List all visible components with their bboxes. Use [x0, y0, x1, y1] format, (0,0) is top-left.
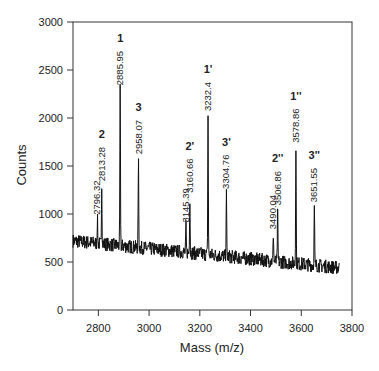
peak-mass-label: 2958.07 — [133, 120, 144, 154]
x-tick-label: 3600 — [289, 322, 313, 334]
y-tick-label: 3000 — [39, 16, 63, 28]
peak-id-label: 3' — [222, 136, 231, 148]
peak-mass-label: 3651.55 — [308, 168, 319, 202]
y-tick-label: 1000 — [39, 208, 63, 220]
peak-id-label: 1'' — [290, 90, 302, 102]
x-tick-label: 3800 — [340, 322, 364, 334]
peak-labels: 2796.322813.2822885.9512958.0733145.3931… — [91, 32, 320, 229]
peak-id-label: 3'' — [309, 149, 321, 161]
peak-id-label: 1' — [204, 63, 213, 75]
x-tick-label: 3000 — [137, 322, 161, 334]
x-tick-label: 3200 — [188, 322, 212, 334]
peak-id-label: 1 — [117, 32, 123, 44]
y-tick-label: 2500 — [39, 64, 63, 76]
x-tick-label: 2800 — [86, 322, 110, 334]
peak-mass-label: 3232.4 — [202, 82, 213, 111]
peak-mass-label: 3160.66 — [184, 158, 195, 192]
peak-id-label: 2' — [185, 140, 194, 152]
peak-mass-label: 2885.95 — [114, 51, 125, 85]
peak-mass-label: 2796.32 — [91, 180, 102, 214]
peak-mass-label: 3578.86 — [290, 108, 301, 142]
peak-mass-label: 3506.86 — [272, 171, 283, 205]
peak-id-label: 2 — [99, 128, 105, 140]
x-axis-title: Mass (m/z) — [180, 340, 244, 355]
peak-mass-label: 2813.28 — [96, 147, 107, 181]
peak-id-label: 2'' — [272, 152, 284, 164]
y-tick-label: 0 — [57, 304, 63, 316]
y-tick-label: 2000 — [39, 112, 63, 124]
mass-spectrum-chart: 050010001500200025003000 280030003200340… — [0, 0, 379, 371]
peak-mass-label: 3304.76 — [220, 155, 231, 189]
y-tick-label: 500 — [45, 256, 63, 268]
y-axis: 050010001500200025003000 — [39, 16, 73, 316]
peak-id-label: 3 — [135, 101, 141, 113]
y-tick-label: 1500 — [39, 160, 63, 172]
x-axis: 280030003200340036003800 — [86, 310, 364, 334]
x-tick-label: 3400 — [238, 322, 262, 334]
y-axis-title: Counts — [14, 144, 29, 186]
